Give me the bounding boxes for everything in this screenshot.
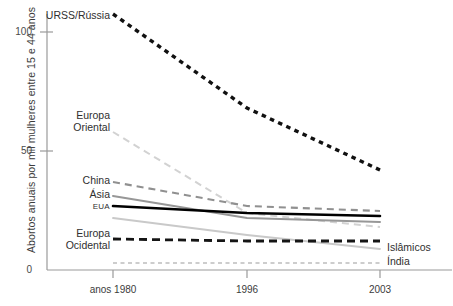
chart-plot-area [0,0,453,306]
series-label-urss-prefix: URSS [46,9,75,21]
series-label-urss-suffix: /Rússia [75,9,110,21]
series-label-india: Índia [387,256,453,268]
y-tick-label-50: 50 [6,145,32,156]
series-line-islamicos [113,218,380,249]
series-line-china [113,182,380,211]
x-tick-label-2003: 2003 [345,284,415,295]
series-line-eua [113,206,380,216]
series-label-europa-oriental: Europa Oriental [10,110,110,133]
series-label-urss-russia: URSS/Rússia [28,10,110,22]
series-line-urss-russia [113,14,380,170]
series-label-europa-oriental-line1: Europa [10,110,110,122]
x-tick-label-1980: anos 1980 [63,284,163,295]
y-tick-label-100: 100 [6,26,32,37]
abortion-rate-line-chart: Abortos anuais por mil mulheres entre 15… [0,0,453,306]
series-line-europa-ocidental [113,239,380,241]
series-label-europa-oriental-line2: Oriental [10,122,110,134]
y-tick-label-0: 0 [6,264,32,275]
series-label-europa-ocidental-line1: Europa [10,228,110,240]
series-label-europa-ocidental: Europa Ocidental [10,228,110,251]
series-label-china: China [30,175,110,187]
x-tick-label-1996: 1996 [212,284,282,295]
series-label-asia: Ásia [30,189,110,201]
series-label-islamicos: Islâmicos [387,242,453,254]
series-label-europa-ocidental-line2: Ocidental [10,240,110,252]
series-label-eua: EUA [30,201,110,213]
